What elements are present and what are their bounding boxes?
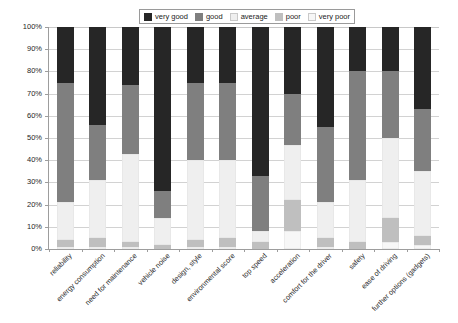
bar-segment-very-good[interactable] bbox=[349, 27, 366, 71]
bar-segment-good[interactable] bbox=[154, 191, 171, 218]
chart-legend: very goodgoodaveragepoorvery poor bbox=[139, 9, 355, 24]
bar-group bbox=[317, 27, 334, 249]
bar-segment-good[interactable] bbox=[382, 71, 399, 138]
stacked-bar[interactable] bbox=[57, 27, 74, 249]
bar-segment-good[interactable] bbox=[187, 83, 204, 161]
bar-group bbox=[284, 27, 301, 249]
bar-segment-average[interactable] bbox=[284, 145, 301, 201]
x-tick-mark bbox=[439, 249, 440, 252]
bar-group bbox=[57, 27, 74, 249]
bar-segment-very-poor[interactable] bbox=[284, 231, 301, 249]
bar-segment-poor[interactable] bbox=[284, 200, 301, 231]
bar-group bbox=[252, 27, 269, 249]
bar-segment-average[interactable] bbox=[57, 202, 74, 240]
y-tick-label: 90% bbox=[2, 45, 42, 53]
bar-segment-very-poor[interactable] bbox=[219, 247, 236, 249]
bar-segment-poor[interactable] bbox=[317, 238, 334, 247]
bar-segment-poor[interactable] bbox=[122, 242, 139, 246]
bar-segment-very-good[interactable] bbox=[89, 27, 106, 125]
bar-segment-average[interactable] bbox=[154, 218, 171, 245]
bar-segment-average[interactable] bbox=[414, 171, 431, 235]
bar-segment-average[interactable] bbox=[349, 180, 366, 242]
bar-segment-good[interactable] bbox=[57, 83, 74, 203]
x-axis-labels: reliabilityenergy consumptionneed for ma… bbox=[48, 252, 438, 322]
bar-segment-average[interactable] bbox=[89, 180, 106, 238]
stacked-bar[interactable] bbox=[154, 27, 171, 249]
bar-segment-poor[interactable] bbox=[57, 240, 74, 247]
stacked-bar[interactable] bbox=[89, 27, 106, 249]
bar-segment-poor[interactable] bbox=[414, 236, 431, 245]
x-tick-label: acceleration bbox=[268, 252, 301, 285]
x-tick-label: safety bbox=[347, 252, 366, 271]
stacked-bar[interactable] bbox=[349, 27, 366, 249]
bar-segment-very-poor[interactable] bbox=[57, 247, 74, 249]
bar-segment-poor[interactable] bbox=[349, 242, 366, 249]
stacked-bar[interactable] bbox=[219, 27, 236, 249]
legend-swatch-icon bbox=[308, 13, 316, 21]
legend-item-good[interactable]: good bbox=[195, 12, 223, 21]
legend-label: average bbox=[241, 12, 268, 21]
y-tick-label: 30% bbox=[2, 178, 42, 186]
bar-segment-very-poor[interactable] bbox=[89, 247, 106, 249]
bar-segment-very-poor[interactable] bbox=[122, 247, 139, 249]
stacked-bar[interactable] bbox=[252, 27, 269, 249]
legend-item-average[interactable]: average bbox=[230, 12, 268, 21]
bar-segment-average[interactable] bbox=[252, 231, 269, 242]
legend-swatch-icon bbox=[275, 13, 283, 21]
bar-segment-average[interactable] bbox=[187, 160, 204, 240]
stacked-bar[interactable] bbox=[122, 27, 139, 249]
bar-segment-very-poor[interactable] bbox=[382, 242, 399, 249]
bar-segment-good[interactable] bbox=[414, 109, 431, 171]
y-tick-label: 60% bbox=[2, 112, 42, 120]
legend-label: good bbox=[206, 12, 223, 21]
bar-segment-poor[interactable] bbox=[89, 238, 106, 247]
legend-item-very-poor[interactable]: very poor bbox=[308, 12, 350, 21]
bar-group bbox=[414, 27, 431, 249]
bar-segment-very-poor[interactable] bbox=[317, 247, 334, 249]
stacked-bar[interactable] bbox=[382, 27, 399, 249]
bar-segment-good[interactable] bbox=[349, 71, 366, 180]
bar-segment-very-good[interactable] bbox=[317, 27, 334, 127]
stacked-bar-chart: very goodgoodaveragepoorvery poor 0%10%2… bbox=[0, 0, 458, 323]
bar-segment-very-good[interactable] bbox=[57, 27, 74, 83]
bar-segment-good[interactable] bbox=[317, 127, 334, 202]
bar-segment-average[interactable] bbox=[382, 138, 399, 218]
stacked-bar[interactable] bbox=[317, 27, 334, 249]
bar-segment-average[interactable] bbox=[219, 160, 236, 238]
bar-segment-good[interactable] bbox=[284, 94, 301, 145]
bar-segment-very-good[interactable] bbox=[187, 27, 204, 83]
y-tick-label: 50% bbox=[2, 134, 42, 142]
bar-segment-very-good[interactable] bbox=[382, 27, 399, 71]
legend-swatch-icon bbox=[195, 13, 203, 21]
x-tick-label: reliability bbox=[48, 252, 73, 277]
bar-segment-good[interactable] bbox=[122, 85, 139, 154]
bar-segment-very-good[interactable] bbox=[252, 27, 269, 176]
bar-group bbox=[219, 27, 236, 249]
bar-segment-poor[interactable] bbox=[154, 245, 171, 249]
bar-segment-very-good[interactable] bbox=[414, 27, 431, 109]
legend-item-very-good[interactable]: very good bbox=[144, 12, 188, 21]
bar-segment-good[interactable] bbox=[219, 83, 236, 161]
bar-segment-good[interactable] bbox=[252, 176, 269, 232]
bar-group bbox=[122, 27, 139, 249]
bar-segment-poor[interactable] bbox=[219, 238, 236, 247]
legend-item-poor[interactable]: poor bbox=[275, 12, 301, 21]
stacked-bar[interactable] bbox=[187, 27, 204, 249]
bar-segment-poor[interactable] bbox=[382, 218, 399, 242]
bar-group bbox=[349, 27, 366, 249]
bar-segment-very-good[interactable] bbox=[154, 27, 171, 191]
bar-segment-poor[interactable] bbox=[252, 242, 269, 249]
bar-segment-average[interactable] bbox=[317, 202, 334, 238]
bar-segment-very-poor[interactable] bbox=[414, 245, 431, 249]
legend-label: very poor bbox=[319, 12, 350, 21]
bar-segment-poor[interactable] bbox=[187, 240, 204, 247]
stacked-bar[interactable] bbox=[284, 27, 301, 249]
bar-segment-very-good[interactable] bbox=[122, 27, 139, 85]
stacked-bar[interactable] bbox=[414, 27, 431, 249]
bar-segment-very-good[interactable] bbox=[219, 27, 236, 83]
bar-segment-average[interactable] bbox=[122, 154, 139, 243]
y-tick-label: 20% bbox=[2, 201, 42, 209]
bar-segment-good[interactable] bbox=[89, 125, 106, 181]
bar-segment-very-poor[interactable] bbox=[187, 247, 204, 249]
bar-segment-very-good[interactable] bbox=[284, 27, 301, 94]
